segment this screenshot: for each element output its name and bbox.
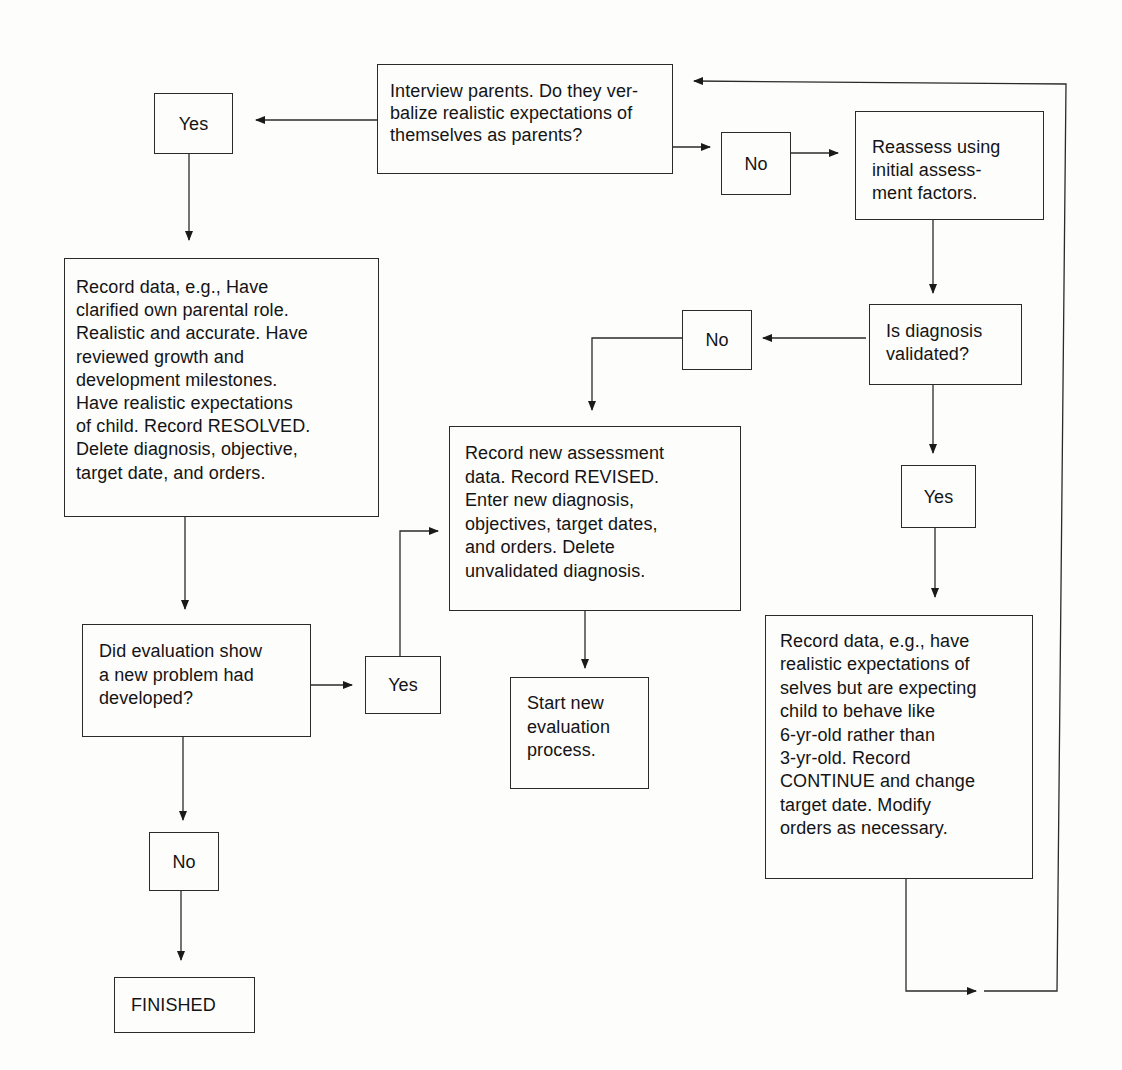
interview-parents-box: Interview parents. Do they ver- balize r…	[377, 64, 673, 174]
flowchart-canvas: Interview parents. Do they ver- balize r…	[0, 0, 1122, 1070]
yes-top-box: Yes	[154, 93, 233, 154]
no-top-box: No	[721, 132, 791, 195]
reassess-text: Reassess using initial assess- ment fact…	[872, 136, 1043, 205]
reassess-box: Reassess using initial assess- ment fact…	[855, 111, 1044, 220]
record-resolved-box: Record data, e.g., Have clarified own pa…	[64, 258, 379, 517]
no-validated-label: No	[705, 329, 728, 351]
is-diagnosis-validated-text: Is diagnosis validated?	[886, 320, 1021, 366]
yes-evaluation-box: Yes	[365, 656, 441, 714]
yes-validated-box: Yes	[901, 465, 976, 528]
yes-top-label: Yes	[179, 113, 209, 135]
did-evaluation-text: Did evaluation show a new problem had de…	[99, 640, 310, 711]
record-continue-box: Record data, e.g., have realistic expect…	[765, 615, 1033, 879]
did-evaluation-box: Did evaluation show a new problem had de…	[82, 624, 311, 737]
record-resolved-text: Record data, e.g., Have clarified own pa…	[76, 276, 378, 485]
no-evaluation-box: No	[149, 832, 219, 891]
is-diagnosis-validated-box: Is diagnosis validated?	[869, 304, 1022, 385]
interview-parents-text: Interview parents. Do they ver- balize r…	[390, 80, 672, 146]
no-validated-box: No	[682, 310, 752, 370]
record-revised-box: Record new assessment data. Record REVIS…	[449, 426, 741, 611]
start-new-evaluation-text: Start new evaluation process.	[527, 692, 648, 763]
yes-evaluation-label: Yes	[388, 674, 418, 696]
finished-label: FINISHED	[131, 994, 216, 1016]
record-continue-text: Record data, e.g., have realistic expect…	[780, 630, 1032, 841]
no-evaluation-label: No	[172, 851, 195, 873]
start-new-evaluation-box: Start new evaluation process.	[510, 677, 649, 789]
yes-validated-label: Yes	[924, 486, 954, 508]
record-revised-text: Record new assessment data. Record REVIS…	[465, 442, 740, 583]
no-top-label: No	[744, 153, 767, 175]
finished-box: FINISHED	[114, 977, 255, 1033]
